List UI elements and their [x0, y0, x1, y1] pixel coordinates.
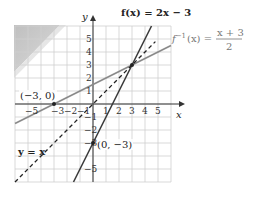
y-tick-label: −5: [84, 164, 98, 174]
plot-area: −5−3−2−11234554321−1−2−3−5 x y f(x) = 2x…: [0, 0, 256, 197]
point-marker: [52, 102, 56, 106]
y-tick-label: −1: [84, 112, 97, 122]
y-tick-label: 5: [86, 34, 92, 44]
x-tick-label: 1: [103, 106, 109, 116]
y-tick-label: −3: [84, 138, 98, 148]
finv-numerator: x + 3: [217, 27, 244, 38]
point-marker: [91, 141, 95, 145]
f-label: f(x) = 2x − 3: [121, 7, 191, 18]
x-axis-arrow-icon: [179, 101, 185, 107]
point-marker: [130, 63, 134, 67]
finv-label: f−1(x) = x + 3 2: [171, 27, 244, 52]
point-label-x-intercept: (−3, 0): [20, 90, 55, 101]
y-tick-label: 2: [86, 73, 92, 83]
y-tick-label: 4: [86, 47, 92, 57]
y-axis-label: y: [81, 11, 88, 22]
x-tick-label: 2: [116, 106, 122, 116]
svg-text:f−1(x) =: f−1(x) =: [171, 32, 212, 44]
x-tick-label: 4: [142, 106, 148, 116]
x-tick-label: −3: [51, 106, 65, 116]
point-label-y-intercept: (0, −3): [97, 139, 132, 150]
x-tick-label: 3: [129, 106, 135, 116]
x-tick-label: 5: [155, 106, 161, 116]
x-tick-label: −2: [64, 106, 77, 116]
y-tick-label: 1: [86, 86, 92, 96]
y-axis-arrow-icon: [90, 15, 96, 21]
identity-label: y = x: [17, 146, 46, 157]
finv-mid: (x) =: [187, 33, 212, 44]
y-tick-label: 3: [86, 60, 92, 70]
x-axis-label: x: [176, 109, 182, 120]
y-tick-label: −2: [84, 125, 97, 135]
finv-denominator: 2: [226, 41, 232, 52]
finv-sup: −1: [176, 32, 186, 40]
x-tick-label: −5: [25, 106, 39, 116]
inverse-function-graph: −5−3−2−11234554321−1−2−3−5 x y f(x) = 2x…: [0, 0, 256, 197]
